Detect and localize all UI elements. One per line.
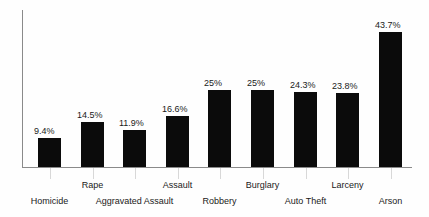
bar-value-label: 43.7%: [375, 20, 401, 30]
x-axis-category-label: Homicide: [31, 196, 69, 206]
bar-value-label: 24.3%: [290, 80, 316, 90]
bar: [251, 90, 274, 167]
bar-value-label: 16.6%: [162, 104, 188, 114]
x-axis-category-label: Auto Theft: [285, 196, 326, 206]
plot-area: 9.4%14.5%11.9%16.6%25%25%24.3%23.8%43.7%…: [0, 0, 429, 217]
x-axis-tick: [220, 168, 221, 179]
x-axis-tick: [348, 168, 349, 179]
x-axis-category-label: Robbery: [202, 196, 236, 206]
bar: [336, 93, 359, 167]
bar-value-label: 14.5%: [77, 110, 103, 120]
bar-value-label: 23.8%: [332, 81, 358, 91]
bar-value-label: 25%: [204, 78, 222, 88]
x-axis-category-label: Rape: [82, 180, 104, 190]
bar: [208, 90, 231, 167]
bar-value-label: 9.4%: [34, 126, 55, 136]
x-axis-tick: [391, 168, 392, 179]
x-axis-tick: [263, 168, 264, 179]
bar: [81, 122, 104, 167]
x-axis-tick: [93, 168, 94, 179]
bar: [379, 32, 402, 167]
bar-value-label: 11.9%: [119, 118, 144, 128]
bar: [38, 138, 61, 167]
x-axis-category-label: Arson: [379, 196, 403, 206]
bar-value-label: 25%: [247, 78, 265, 88]
x-axis-tick: [178, 168, 179, 179]
x-axis-category-label: Aggravated Assault: [96, 196, 174, 206]
bar: [294, 92, 317, 167]
bar: [123, 130, 146, 167]
x-axis-tick: [50, 168, 51, 179]
x-axis-category-label: Assault: [163, 180, 193, 190]
bar-chart: 9.4%14.5%11.9%16.6%25%25%24.3%23.8%43.7%…: [0, 0, 429, 217]
x-axis-tick: [135, 168, 136, 179]
x-axis-category-label: Burglary: [246, 180, 280, 190]
bar: [166, 116, 189, 167]
x-axis-category-label: Larceny: [331, 180, 363, 190]
x-axis-line: [22, 167, 412, 168]
y-axis-line: [22, 10, 23, 167]
x-axis-tick: [306, 168, 307, 179]
